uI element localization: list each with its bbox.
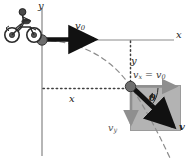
label-vertical-drop: y [131,56,137,66]
projectile-motion-figure: y x v0 y x vx = v0 θ vy v [0,0,193,168]
figure-canvas [0,0,193,168]
label-angle-theta: θ [149,93,156,103]
label-horizontal-range: x [69,94,75,104]
label-x-axis: x [176,30,182,40]
label-vx-rhs-subscript: 0 [161,73,165,81]
motorcycle-icon [5,9,41,43]
label-v0-subscript: 0 [81,24,85,32]
label-vx-equals: = [142,69,156,80]
label-vy: vy [108,123,117,134]
label-initial-velocity: v0 [75,21,85,32]
label-y-axis: y [38,1,44,11]
label-vy-subscript: y [113,126,117,134]
label-resultant-velocity: v [179,122,185,132]
label-vx-equation: vx = v0 [133,70,166,81]
position-dot [125,81,135,91]
